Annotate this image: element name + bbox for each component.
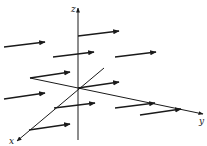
axis-labels: zxy <box>9 4 205 146</box>
vector-arrow <box>53 52 94 57</box>
vector-arrow <box>4 42 45 47</box>
vector-arrow <box>78 31 119 36</box>
vector-arrow <box>54 103 95 108</box>
axes <box>17 8 203 141</box>
y-axis-label: y <box>198 116 205 126</box>
x-axis-label: x <box>9 136 14 146</box>
vector-arrow <box>4 93 45 99</box>
vector-arrow <box>115 52 156 57</box>
vectors <box>4 31 181 130</box>
vector-arrow <box>29 124 70 130</box>
vector-arrow <box>115 103 155 108</box>
vector-field-diagram: zxy <box>0 0 207 146</box>
z-axis-label: z <box>70 4 76 14</box>
vector-arrow <box>140 109 181 115</box>
vector-arrow <box>30 72 70 78</box>
